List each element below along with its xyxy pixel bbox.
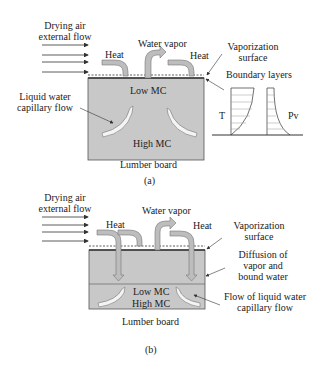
flow-liquid-line2: capillary flow [220, 302, 310, 313]
flow-liquid-label-b: Flow of liquid water capillary flow [220, 291, 310, 313]
water-vapor-label-a: Water vapor [138, 38, 187, 49]
graph-pv-label: Pv [288, 110, 299, 121]
drying-air-line2: external flow [32, 203, 98, 214]
high-mc-label-a: High MC [133, 138, 171, 149]
low-mc-label-a: Low MC [130, 85, 166, 96]
diffusion-line3: bound water [232, 271, 294, 282]
vaporization-surface-label-b: Vaporization surface [228, 220, 290, 242]
vaporization-line2: surface [222, 52, 284, 63]
liquid-water-line1: Liquid water [14, 91, 76, 102]
heat-arrow-left-a [102, 60, 128, 76]
liquid-water-line2: capillary flow [14, 102, 76, 113]
low-mc-label-b: Low MC [133, 286, 169, 297]
drying-air-label-b: Drying air external flow [32, 192, 98, 214]
drying-air-line2: external flow [32, 31, 98, 42]
heat-arrow-2-b [118, 230, 142, 246]
graph-t-label: T [219, 110, 225, 121]
drying-air-label-a: Drying air external flow [32, 20, 98, 42]
vaporization-surface-label-a: Vaporization surface [222, 41, 284, 63]
vaporization-line1: Vaporization [228, 220, 290, 231]
liquid-water-label-a: Liquid water capillary flow [14, 91, 76, 113]
drying-air-line1: Drying air [32, 20, 98, 31]
pointer-vaporization-b [207, 238, 222, 249]
heat-left-label-b: Heat [106, 219, 125, 230]
high-mc-label-b: High MC [132, 298, 170, 309]
water-vapor-arrow-a [145, 46, 166, 78]
air-flow-arrows-b [42, 217, 88, 241]
boundary-layers-label: Boundary layers [226, 69, 292, 80]
lumber-board-label-b: Lumber board [122, 316, 179, 327]
vaporization-line1: Vaporization [222, 41, 284, 52]
diffusion-line2: vapor and [232, 260, 294, 271]
pointer-vaporization-a [207, 54, 222, 75]
heat-right-label-b: Heat [193, 220, 212, 231]
diffusion-label-b: Diffusion of vapor and bound water [232, 249, 294, 282]
heat-arrow-right-a [168, 60, 194, 76]
diffusion-line1: Diffusion of [232, 249, 294, 260]
water-vapor-label-b: Water vapor [142, 205, 191, 216]
vaporization-line2: surface [228, 231, 290, 242]
heat-right-label-a: Heat [190, 50, 209, 61]
heat-left-label-a: Heat [105, 49, 124, 60]
drying-air-line1: Drying air [32, 192, 98, 203]
pointer-boundary-a [206, 79, 224, 90]
pointer-diffusion-b [206, 268, 225, 276]
flow-liquid-line1: Flow of liquid water [220, 291, 310, 302]
caption-b: (b) [145, 344, 157, 355]
lumber-board-label-a: Lumber board [120, 159, 177, 170]
caption-a: (a) [144, 175, 155, 186]
air-flow-arrows-a [42, 45, 88, 72]
